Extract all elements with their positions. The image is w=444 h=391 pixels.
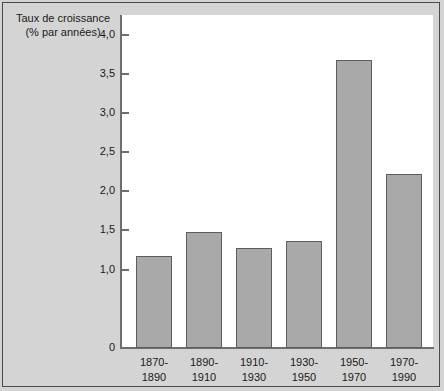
x-axis-label-line: 1870- xyxy=(127,355,181,370)
x-axis-label-line: 1930 xyxy=(227,370,281,385)
x-axis-label-1970-1990: 1970-1990 xyxy=(377,355,431,385)
y-axis-tick-label: 3,5 xyxy=(75,68,115,79)
y-axis-tick xyxy=(121,151,129,153)
x-axis-label-line: 1910 xyxy=(177,370,231,385)
x-axis-label-line: 1950- xyxy=(327,355,381,370)
bar-1890-1910 xyxy=(186,232,222,348)
y-axis-tick xyxy=(121,269,129,271)
bar-1950-1970 xyxy=(336,60,372,348)
y-axis-tick-label: 2,5 xyxy=(75,146,115,157)
y-axis-tick-label: 1,5 xyxy=(75,224,115,235)
x-axis-label-line: 1890- xyxy=(177,355,231,370)
x-axis-label-1870-1890: 1870-1890 xyxy=(127,355,181,385)
y-axis-tick-label: 3,0 xyxy=(75,107,115,118)
y-axis-tick-label: 0 xyxy=(75,342,115,353)
x-axis-label-1910-1930: 1910-1930 xyxy=(227,355,281,385)
x-axis-label-line: 1950 xyxy=(277,370,331,385)
bar-1910-1930 xyxy=(236,248,272,348)
y-axis-tick xyxy=(121,73,129,75)
y-axis-tick-label: 1,0 xyxy=(75,264,115,275)
x-axis-label-1890-1910: 1890-1910 xyxy=(177,355,231,385)
x-axis-label-line: 1970- xyxy=(377,355,431,370)
y-axis-tick-label: 4,0 xyxy=(75,29,115,40)
y-axis-tick xyxy=(121,229,129,231)
x-axis-label-line: 1910- xyxy=(227,355,281,370)
x-axis-label-line: 1930- xyxy=(277,355,331,370)
x-axis-label-line: 1970 xyxy=(327,370,381,385)
y-axis-tick xyxy=(121,190,129,192)
x-axis-label-line: 1990 xyxy=(377,370,431,385)
chart-axis-title-line1: Taux de croissance xyxy=(11,11,115,25)
y-axis-tick-label: 2,0 xyxy=(75,185,115,196)
x-axis-label-1950-1970: 1950-1970 xyxy=(327,355,381,385)
bar-1870-1890 xyxy=(136,256,172,348)
y-axis-line xyxy=(120,15,122,349)
y-axis-tick xyxy=(121,34,129,36)
x-axis-label-1930-1950: 1930-1950 xyxy=(277,355,331,385)
y-axis-tick xyxy=(121,112,129,114)
chart-frame: Taux de croissance (% par années) 01,01,… xyxy=(2,2,440,387)
bar-1930-1950 xyxy=(286,241,322,348)
x-axis-label-line: 1890 xyxy=(127,370,181,385)
bar-1970-1990 xyxy=(386,174,422,348)
